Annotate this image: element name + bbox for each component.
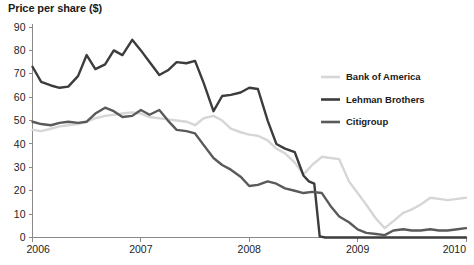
y-axis-tick-label: 10 — [14, 208, 26, 220]
line-chart-plot: 0102030405060708090 20062007200820092010… — [0, 0, 474, 265]
y-axis-tick-label: 30 — [14, 161, 26, 173]
y-axis-tick-label: 90 — [14, 21, 26, 33]
legend-item-label: Bank of America — [346, 71, 421, 82]
y-axis-tick-label: 80 — [14, 44, 26, 56]
y-axis-tick-group: 0102030405060708090 — [14, 21, 33, 244]
series-group — [33, 40, 467, 238]
x-axis-tick-label: 2010 — [443, 243, 467, 255]
series-line-lehman-brothers — [33, 40, 467, 238]
y-axis-tick-label: 40 — [14, 138, 26, 150]
x-axis-tick-label: 2007 — [129, 243, 153, 255]
legend-item-label: Citigroup — [346, 116, 388, 127]
y-axis-tick-label: 50 — [14, 114, 26, 126]
chart-container: Price per share ($) 0102030405060708090 … — [0, 0, 474, 265]
series-line-bank-of-america — [33, 112, 467, 228]
x-axis-tick-label: 2009 — [346, 243, 370, 255]
legend-item-label: Lehman Brothers — [346, 94, 425, 105]
x-axis-tick-label: 2006 — [27, 243, 51, 255]
x-axis-tick-group: 20062007200820092010 — [27, 238, 467, 255]
y-axis-tick-label: 0 — [20, 231, 26, 243]
x-axis-tick-label: 2008 — [238, 243, 262, 255]
y-axis-tick-label: 70 — [14, 67, 26, 79]
chart-legend: Bank of AmericaLehman BrothersCitigroup — [321, 71, 425, 127]
y-axis-tick-label: 60 — [14, 91, 26, 103]
y-axis-tick-label: 20 — [14, 184, 26, 196]
